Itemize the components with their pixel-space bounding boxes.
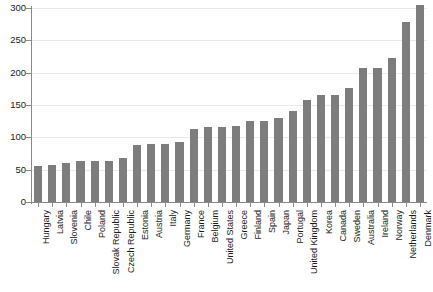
x-axis-category-label: Hungary xyxy=(42,210,51,244)
x-axis-category-label: Germany xyxy=(183,210,192,247)
bar xyxy=(133,145,141,202)
bar xyxy=(303,100,311,202)
bar xyxy=(76,161,84,202)
x-axis-category-label: Korea xyxy=(325,210,334,234)
x-axis-tick xyxy=(180,203,181,207)
x-axis-category-label: Chile xyxy=(84,210,93,231)
x-axis-tick xyxy=(165,203,166,207)
x-axis-category-label: Finland xyxy=(254,210,263,240)
x-axis-category-label: Norway xyxy=(395,210,404,241)
x-axis-tick xyxy=(307,203,308,207)
bar xyxy=(204,127,212,202)
gridline xyxy=(31,40,427,41)
x-axis-tick xyxy=(349,203,350,207)
x-axis-tick xyxy=(363,203,364,207)
bar xyxy=(373,68,381,202)
y-axis-tick-label: 100 xyxy=(0,132,26,141)
bar xyxy=(105,161,113,202)
x-axis-category-label: Denmark xyxy=(424,210,433,247)
bar xyxy=(190,129,198,202)
gridline xyxy=(31,105,427,106)
bar xyxy=(34,166,42,202)
x-axis-category-label: Australia xyxy=(367,210,376,245)
x-axis-category-label: Ireland xyxy=(381,210,390,238)
x-axis-category-label: United States xyxy=(226,210,235,264)
gridline xyxy=(31,73,427,74)
x-axis-tick xyxy=(264,203,265,207)
x-axis-tick xyxy=(279,203,280,207)
y-axis-tick-label: 0 xyxy=(0,197,26,206)
bar xyxy=(48,165,56,202)
x-axis-category-label: Italy xyxy=(169,210,178,227)
x-axis-line xyxy=(31,202,427,203)
y-axis-tick xyxy=(26,8,31,9)
y-axis-line xyxy=(31,6,32,204)
x-axis-tick xyxy=(66,203,67,207)
x-axis-category-label: Latvia xyxy=(56,210,65,234)
bar xyxy=(119,158,127,202)
gridline xyxy=(31,8,427,9)
y-axis-tick-label: 150 xyxy=(0,100,26,109)
x-axis-category-label: Poland xyxy=(98,210,107,238)
x-axis-tick xyxy=(236,203,237,207)
x-axis-tick xyxy=(52,203,53,207)
y-axis-tick-label: 250 xyxy=(0,35,26,44)
bar xyxy=(260,121,268,202)
bar xyxy=(416,5,424,202)
x-axis-tick xyxy=(222,203,223,207)
bar xyxy=(402,22,410,202)
x-axis-category-label: Sweden xyxy=(353,210,362,243)
x-axis-tick xyxy=(151,203,152,207)
x-axis-category-label: Belgium xyxy=(211,210,220,243)
x-axis-tick xyxy=(208,203,209,207)
x-axis-category-label: United Kingdom xyxy=(310,210,319,274)
x-axis-tick xyxy=(194,203,195,207)
x-axis-category-label: Netherlands xyxy=(409,210,418,259)
x-axis-category-label: Austria xyxy=(155,210,164,238)
bar xyxy=(62,163,70,202)
x-axis-category-label: France xyxy=(197,210,206,238)
y-axis-tick xyxy=(26,73,31,74)
bar xyxy=(274,118,282,202)
y-axis-tick xyxy=(26,137,31,138)
gridline xyxy=(31,137,427,138)
bar xyxy=(289,111,297,202)
x-axis-tick xyxy=(406,203,407,207)
x-axis-tick xyxy=(420,203,421,207)
y-axis-tick-label: 50 xyxy=(0,165,26,174)
bar xyxy=(331,95,339,202)
y-axis-tick xyxy=(26,202,31,203)
y-axis-tick xyxy=(26,170,31,171)
x-axis-tick xyxy=(38,203,39,207)
x-axis-category-label: Canada xyxy=(339,210,348,242)
x-axis-category-label: Japan xyxy=(282,210,291,235)
x-axis-tick xyxy=(321,203,322,207)
x-axis-tick xyxy=(378,203,379,207)
x-axis-category-label: Portugal xyxy=(296,210,305,244)
bar xyxy=(359,68,367,202)
y-axis-tick-label: 300 xyxy=(0,3,26,12)
bar xyxy=(175,142,183,202)
bar xyxy=(232,126,240,202)
x-axis-category-label: Greece xyxy=(240,210,249,240)
x-axis-tick xyxy=(392,203,393,207)
x-axis-category-label: Estonia xyxy=(141,210,150,240)
bar xyxy=(388,58,396,202)
bar xyxy=(91,161,99,202)
bar xyxy=(161,144,169,202)
x-axis-category-label: Spain xyxy=(268,210,277,233)
bar xyxy=(218,127,226,202)
bar xyxy=(147,144,155,202)
x-axis-tick xyxy=(95,203,96,207)
bar xyxy=(345,88,353,202)
bar xyxy=(317,95,325,202)
x-axis-tick xyxy=(335,203,336,207)
x-axis-tick xyxy=(109,203,110,207)
plot-area xyxy=(31,8,427,202)
y-axis-tick xyxy=(26,105,31,106)
x-axis-tick xyxy=(293,203,294,207)
x-axis-category-label: Czech Republic xyxy=(127,210,136,273)
bar xyxy=(246,121,254,202)
x-axis-tick xyxy=(123,203,124,207)
